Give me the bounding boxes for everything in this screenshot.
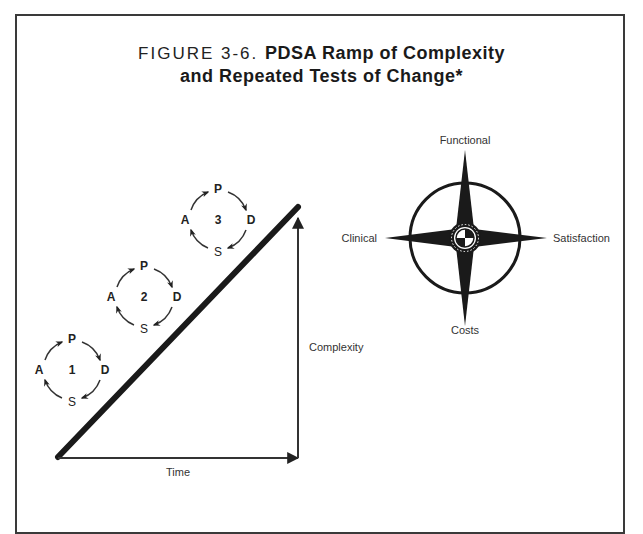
- cycle-study: S: [68, 395, 76, 409]
- pdsa-cycle-2: P D S A 2: [107, 259, 182, 336]
- cycle-study: S: [214, 245, 222, 259]
- complexity-label: Complexity: [309, 341, 364, 353]
- cycle-study: S: [140, 322, 148, 336]
- ramp-chart: Time Complexity: [58, 207, 364, 478]
- compass-label-east: Satisfaction: [553, 232, 610, 244]
- cycle-do: D: [173, 290, 182, 304]
- compass-icon: Functional Costs Clinical Satisfaction: [342, 134, 610, 336]
- pdsa-cycle-1: P D S A 1: [35, 332, 110, 409]
- time-label: Time: [166, 466, 190, 478]
- cycle-plan: P: [214, 182, 222, 196]
- cycle-number: 3: [215, 213, 222, 227]
- cycle-plan: P: [68, 332, 76, 346]
- ramp-line: [58, 207, 298, 457]
- cycle-number: 2: [141, 290, 148, 304]
- cycle-act: A: [35, 363, 44, 377]
- pdsa-cycle-3: P D S A 3: [181, 182, 256, 259]
- cycle-number: 1: [69, 363, 76, 377]
- cycle-plan: P: [140, 259, 148, 273]
- cycle-do: D: [247, 213, 256, 227]
- cycle-act: A: [181, 213, 190, 227]
- compass-label-west: Clinical: [342, 232, 377, 244]
- compass-label-south: Costs: [451, 324, 480, 336]
- cycle-do: D: [101, 363, 110, 377]
- cycle-act: A: [107, 290, 116, 304]
- compass-label-north: Functional: [440, 134, 491, 146]
